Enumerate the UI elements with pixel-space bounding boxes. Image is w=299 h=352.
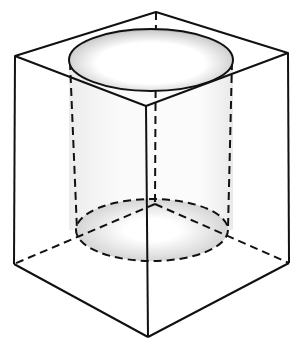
cube-right-edge [288,53,289,263]
cube-bottom-right-front-edge [148,263,289,337]
cube-cylinder-diagram [0,0,299,352]
diagram-canvas [0,0,299,352]
cube-bottom-left-front-edge [14,264,148,337]
cylinder-bottom-ellipse [76,199,228,261]
cube-left-edge [14,56,15,264]
